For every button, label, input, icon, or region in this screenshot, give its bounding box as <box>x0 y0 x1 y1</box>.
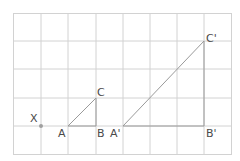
label-x: X <box>30 112 38 125</box>
triangle-abc <box>68 98 96 126</box>
triangle-a-prime-b-prime-c-prime <box>123 41 204 126</box>
label-a-prime: A' <box>110 127 121 140</box>
label-b-prime: B' <box>206 127 217 140</box>
enlargement-diagram: X A B C A' B' C' <box>0 0 240 161</box>
label-a: A <box>58 127 66 140</box>
label-b: B <box>97 127 105 140</box>
label-c: C <box>97 86 105 99</box>
grid <box>13 13 232 155</box>
center-point-x <box>39 124 43 128</box>
label-c-prime: C' <box>206 32 217 45</box>
